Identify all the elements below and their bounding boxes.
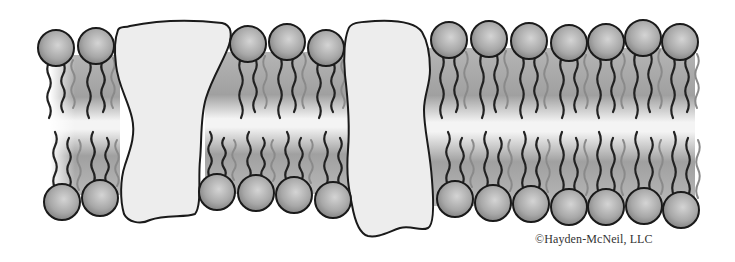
phospholipid-head	[437, 181, 473, 217]
phospholipid-head	[625, 20, 661, 56]
phospholipid-head	[276, 177, 312, 213]
phospholipid-head	[44, 184, 80, 220]
phospholipid-head	[588, 24, 624, 60]
phospholipid-head	[551, 189, 587, 225]
phospholipid-head	[511, 23, 547, 59]
phospholipid-head	[269, 24, 305, 60]
phospholipid-head	[431, 22, 467, 58]
phospholipid-head	[315, 182, 351, 218]
copyright-credit: ©Hayden-McNeil, LLC	[535, 232, 653, 247]
phospholipid-head	[38, 30, 74, 66]
phospholipid-head	[662, 24, 698, 60]
lipid-tail	[695, 54, 699, 108]
membrane-diagram	[0, 0, 735, 262]
phospholipid-head	[475, 185, 511, 221]
phospholipid-head	[588, 189, 624, 225]
phospholipid-head	[78, 28, 114, 64]
phospholipid-head	[199, 174, 235, 210]
phospholipid-head	[513, 186, 549, 222]
phospholipid-head	[471, 21, 507, 57]
phospholipid-head	[308, 30, 344, 66]
phospholipid-head	[663, 192, 699, 228]
phospholipid-head	[82, 180, 118, 216]
lipid-tail	[696, 140, 700, 198]
phospholipid-head	[626, 188, 662, 224]
phospholipid-head	[551, 25, 587, 61]
phospholipid-head	[238, 175, 274, 211]
phospholipid-head	[230, 26, 266, 62]
integral-protein-middle	[344, 21, 433, 237]
